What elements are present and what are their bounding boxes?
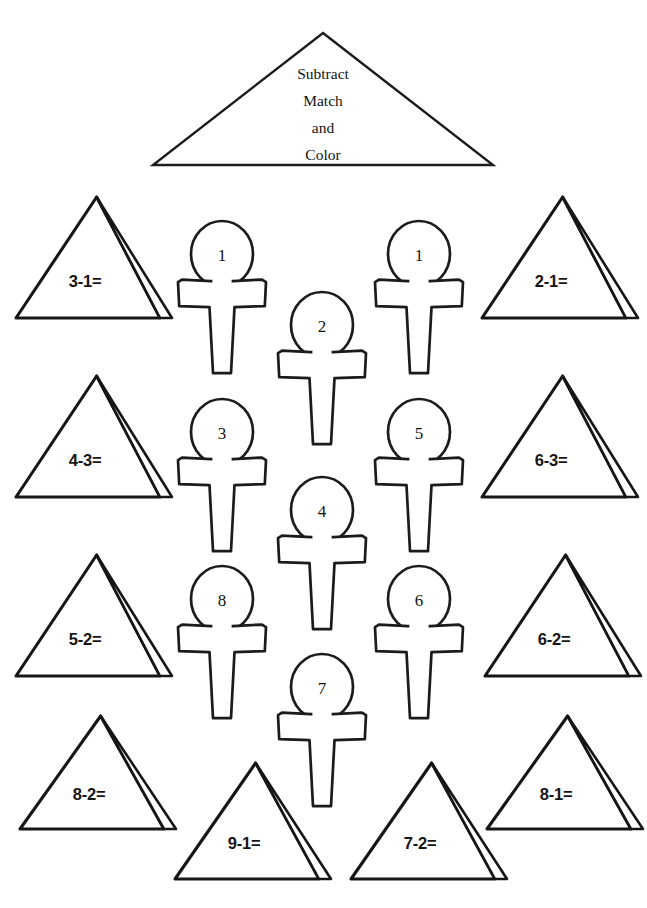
title-line-3: and	[312, 119, 335, 136]
title-banner-group: SubtractMatchandColor	[153, 33, 493, 165]
ankh-body	[375, 625, 463, 719]
ankh-junction-mask	[212, 452, 231, 461]
pyramid-p5[interactable]: 5-2=	[16, 555, 172, 676]
ankh-junction-mask	[312, 707, 331, 716]
ankh-a8[interactable]: 6	[375, 566, 463, 718]
ankh-a3[interactable]: 2	[278, 292, 366, 444]
ankh-junction-mask	[212, 274, 231, 283]
pyramid-p8[interactable]: 8-1=	[487, 716, 643, 829]
worksheet-page: SubtractMatchandColor3-1=2-1=4-3=6-3=5-2…	[0, 0, 647, 908]
equation-label: 8-1=	[540, 785, 573, 803]
ankh-a1[interactable]: 1	[178, 221, 266, 373]
ankh-body	[178, 625, 266, 719]
pyramid-front-face	[175, 763, 319, 879]
equation-label: 8-2=	[73, 785, 106, 803]
ankh-body	[178, 280, 266, 374]
pyramid-front-face	[16, 376, 160, 497]
ankh-number: 5	[415, 424, 424, 443]
ankh-number: 4	[318, 502, 327, 521]
pyramid-front-face	[16, 197, 160, 318]
ankh-number: 1	[218, 246, 227, 265]
ankh-a2[interactable]: 1	[375, 221, 463, 373]
equation-label: 6-2=	[538, 630, 571, 648]
ankh-number: 3	[218, 424, 227, 443]
pyramid-front-face	[482, 376, 626, 497]
pyramid-p2[interactable]: 2-1=	[482, 197, 638, 318]
pyramid-front-face	[16, 555, 160, 676]
ankh-junction-mask	[312, 345, 331, 354]
ankh-number: 2	[318, 317, 327, 336]
ankh-a4[interactable]: 3	[178, 399, 266, 551]
pyramid-p7[interactable]: 8-2=	[20, 716, 176, 829]
ankh-a5[interactable]: 5	[375, 399, 463, 551]
pyramid-p6[interactable]: 6-2=	[485, 555, 641, 676]
ankh-body	[278, 536, 366, 630]
pyramid-front-face	[20, 716, 164, 829]
pyramid-p10[interactable]: 7-2=	[351, 763, 507, 879]
pyramid-front-face	[487, 716, 631, 829]
ankh-number: 7	[318, 679, 327, 698]
equation-label: 7-2=	[404, 834, 437, 852]
pyramid-front-face	[485, 555, 629, 676]
ankh-a7[interactable]: 8	[178, 566, 266, 718]
equation-label: 2-1=	[535, 272, 568, 290]
ankh-body	[278, 351, 366, 445]
ankh-junction-mask	[312, 530, 331, 539]
ankh-a9[interactable]: 7	[278, 654, 366, 806]
ankh-body	[278, 713, 366, 807]
title-line-4: Color	[305, 146, 341, 163]
pyramid-front-face	[351, 763, 495, 879]
equation-label: 4-3=	[69, 451, 102, 469]
ankh-number: 1	[415, 246, 424, 265]
ankh-a6[interactable]: 4	[278, 477, 366, 629]
title-line-1: Subtract	[297, 65, 349, 82]
pyramid-front-face	[482, 197, 626, 318]
title-line-2: Match	[303, 92, 343, 109]
ankh-junction-mask	[409, 274, 428, 283]
ankh-number: 8	[218, 591, 227, 610]
ankh-body	[375, 458, 463, 552]
ankh-junction-mask	[409, 619, 428, 628]
pyramid-p4[interactable]: 6-3=	[482, 376, 638, 497]
ankh-body	[375, 280, 463, 374]
equation-label: 9-1=	[228, 834, 261, 852]
ankh-number: 6	[415, 591, 424, 610]
pyramid-p9[interactable]: 9-1=	[175, 763, 331, 879]
equation-label: 6-3=	[535, 451, 568, 469]
equation-label: 3-1=	[69, 272, 102, 290]
equation-label: 5-2=	[69, 630, 102, 648]
ankh-junction-mask	[409, 452, 428, 461]
worksheet-artwork: SubtractMatchandColor3-1=2-1=4-3=6-3=5-2…	[0, 0, 647, 908]
ankh-junction-mask	[212, 619, 231, 628]
pyramid-p1[interactable]: 3-1=	[16, 197, 172, 318]
pyramid-p3[interactable]: 4-3=	[16, 376, 172, 497]
ankh-body	[178, 458, 266, 552]
